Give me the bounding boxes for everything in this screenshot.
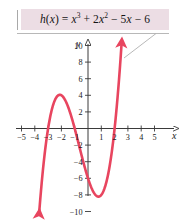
y-tick-label: 2 [78,107,82,116]
equation-callout: h(x) = x3 + 2x2 − 5x − 6 [17,9,169,30]
equation-paren-close: ) [55,13,59,25]
x-axis-label: x [172,130,176,141]
y-tick-label: 6 [78,74,82,83]
cubic-function-figure: h(x) = x3 + 2x2 − 5x − 6 y x −5−4−3−2−11… [0,0,184,221]
x-tick-label: 1 [99,133,103,142]
y-tick-label: 8 [78,58,82,67]
y-tick-label: −6 [74,174,83,183]
x-tick-label: 4 [139,133,143,142]
callout-left-rule [17,10,18,30]
equation-equals: = [62,13,69,25]
x-tick-label: −5 [17,133,26,142]
equation-minus-second: − [135,13,142,25]
equation-plus: + [84,13,91,25]
x-tick-label: −4 [30,133,39,142]
y-tick-label: −8 [74,190,83,199]
x-tick-label: −2 [57,133,66,142]
x-tick-label: 3 [126,133,130,142]
equation-minus-first: − [111,13,118,25]
equation-constant-term: 6 [144,13,150,25]
equation-term3-variable: x [126,13,131,25]
equation-term2-exponent: 2 [104,11,108,20]
graph-canvas [0,0,184,221]
callout-leader-line [124,34,156,59]
y-tick-label: −10 [70,207,83,216]
x-tick-label: −3 [44,133,53,142]
y-tick-label: 10 [74,41,82,50]
y-tick-label: −4 [74,157,83,166]
equation-text: h(x) = x3 + 2x2 − 5x − 6 [21,9,169,30]
x-tick-label: 2 [113,133,117,142]
x-tick-label: 5 [152,133,156,142]
y-tick-label: −2 [74,141,83,150]
y-tick-label: 4 [78,91,82,100]
equation-term1-exponent: 3 [77,11,81,20]
